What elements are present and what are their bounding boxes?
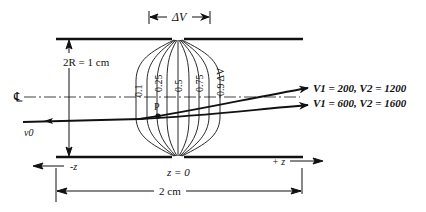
delta-v-label: ΔV bbox=[171, 10, 188, 24]
point-p bbox=[155, 113, 160, 118]
neg-z-label: -z bbox=[70, 161, 77, 172]
point-p-label: P bbox=[154, 101, 160, 112]
beam-trajectories bbox=[23, 88, 308, 124]
equipotential-label-0.1: 0.1 bbox=[133, 85, 144, 98]
radius-label: 2R = 1 cm bbox=[63, 56, 110, 68]
centerline-symbol: ℄ bbox=[13, 89, 23, 104]
equipotential-lines bbox=[136, 40, 220, 156]
equipotential-label-0.9: 0.9 ΔV bbox=[215, 67, 226, 96]
equipotential-label-0.25: 0.25 bbox=[153, 75, 164, 93]
trajectory-label-2: V1 = 600, V2 = 1600 bbox=[313, 97, 407, 109]
equipotential-label-0.5: 0.5 bbox=[173, 80, 184, 93]
length-label: 2 cm bbox=[159, 185, 181, 197]
lens-diagram: ΔV 2R = 1 cm ℄ 0.1 0.25 0.5 0.75 0.9 ΔV … bbox=[0, 0, 426, 212]
beam-label: v0 bbox=[24, 127, 33, 138]
equipotential-label-0.75: 0.75 bbox=[194, 75, 205, 93]
pos-z-label: + z bbox=[272, 156, 285, 167]
origin-label: z = 0 bbox=[166, 166, 190, 178]
trajectory-label-1: V1 = 200, V2 = 1200 bbox=[313, 82, 407, 94]
